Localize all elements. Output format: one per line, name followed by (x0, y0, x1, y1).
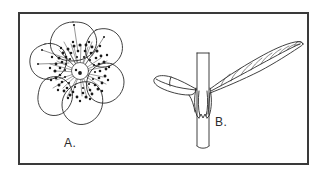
panel-a-flower (30, 22, 124, 125)
leaf-sheath-right-inner (206, 91, 208, 116)
panel-b-label: B. (215, 115, 227, 129)
leaf-right-lower-edge (210, 44, 303, 93)
leaf-sheath-left-inner (198, 91, 200, 116)
flower-center-ovary-dot-2 (75, 69, 77, 71)
leaf-right-midrib (211, 44, 300, 91)
leaf-left-base-curve (189, 95, 195, 112)
figure-drawing-canvas (0, 0, 329, 177)
panel-b-stem-leaves (154, 42, 303, 149)
stem-bottom (197, 146, 209, 148)
panel-a-label: A. (64, 136, 76, 150)
botanical-figure: A. B. (0, 0, 329, 177)
stamen-anthers (37, 24, 110, 102)
node-notch (199, 114, 207, 118)
flower-center-pistil (72, 63, 89, 80)
flower-center-ovary-dot (78, 71, 82, 75)
leaf-left-outline (154, 76, 196, 95)
